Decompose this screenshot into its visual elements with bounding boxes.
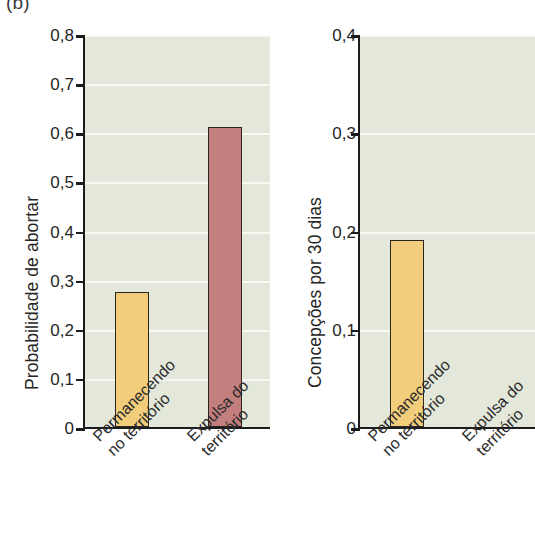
- y-axis-tick: [76, 330, 85, 333]
- y-axis-tick: [351, 330, 360, 333]
- gridline: [85, 330, 270, 332]
- y-axis-tick-label: 0,4: [50, 223, 74, 243]
- y-axis-tick: [76, 133, 85, 136]
- y-axis-tick: [76, 379, 85, 382]
- y-axis-tick: [351, 133, 360, 136]
- y-axis-tick-label: 0,3: [50, 272, 74, 292]
- y-axis-tick: [351, 35, 360, 38]
- gridline: [85, 133, 270, 135]
- y-axis-tick: [76, 35, 85, 38]
- y-axis-tick: [76, 281, 85, 284]
- y-axis-tick-label: 0,8: [50, 26, 74, 46]
- y-axis-tick: [76, 84, 85, 87]
- y-axis-tick: [351, 232, 360, 235]
- y-axis-tick: [76, 428, 85, 431]
- y-axis-title-left: Probabilidade de abortar: [22, 196, 43, 390]
- gridline: [360, 35, 535, 37]
- gridline: [85, 84, 270, 86]
- chart-left-probabilidade-de-abortar: Probabilidade de abortar 00,10,20,30,40,…: [0, 0, 282, 558]
- y-axis-tick-label: 0,6: [50, 124, 74, 144]
- gridline: [360, 232, 535, 234]
- gridline: [360, 330, 535, 332]
- gridline: [360, 133, 535, 135]
- chart-right-concepcoes-por-30-dias: Concepções por 30 dias 00,10,20,30,4 Per…: [288, 0, 535, 558]
- y-axis-tick-label: 0,1: [50, 370, 74, 390]
- y-axis-tick-label: 0,2: [50, 321, 74, 341]
- gridline: [85, 232, 270, 234]
- y-axis-tick-label: 0,5: [50, 173, 74, 193]
- y-axis-tick: [76, 182, 85, 185]
- gridline: [85, 182, 270, 184]
- y-axis-tick-label: 0,7: [50, 75, 74, 95]
- gridline: [85, 281, 270, 283]
- x-axis-tick-labels-right: Permanecendono territórioExpulsa doterri…: [288, 432, 535, 558]
- y-axis-title-right: Concepções por 30 dias: [305, 197, 326, 388]
- y-axis-tick: [76, 232, 85, 235]
- y-axis-tick: [351, 428, 360, 431]
- gridline: [85, 35, 270, 37]
- x-axis-tick-labels-left: Permanecendono territórioExpulsa doterri…: [0, 432, 282, 558]
- figure-panel-b: (b) Probabilidade de abortar 00,10,20,30…: [0, 0, 535, 558]
